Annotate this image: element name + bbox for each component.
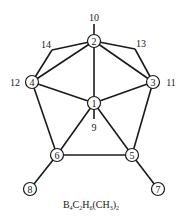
atom-number: 2 (92, 36, 97, 47)
atom-number: 4 (30, 77, 35, 88)
formula-part: B (63, 199, 70, 210)
atom-node-8: 8 (24, 183, 37, 196)
bond-1-5 (94, 103, 132, 155)
bond-4-1 (32, 82, 94, 103)
atom-node-3: 3 (147, 76, 160, 89)
atom-label-10: 10 (89, 12, 99, 23)
atom-label-14: 14 (41, 39, 51, 50)
atom-label-9: 9 (92, 122, 97, 133)
atom-node-2: 2 (88, 35, 101, 48)
molecular-formula: B4C2H6(CH3)2 (0, 199, 182, 211)
atom-label-13: 13 (136, 38, 146, 49)
atom-node-1: 1 (88, 97, 101, 110)
atom-label-12: 12 (10, 77, 20, 88)
atom-node-7: 7 (152, 183, 165, 196)
bond-3-1 (94, 82, 153, 103)
atom-number: 7 (156, 184, 161, 195)
atom-number: 1 (92, 98, 97, 109)
formula-subscript: 2 (116, 205, 119, 211)
hydrogen-labels: 10911121314 (10, 12, 176, 133)
atom-number: 5 (130, 150, 135, 161)
formula-part: (CH (93, 199, 110, 210)
bond-1-6 (57, 103, 94, 155)
formula-part: H (82, 199, 89, 210)
atom-node-4: 4 (26, 76, 39, 89)
atom-number: 8 (28, 184, 33, 195)
atom-number: 6 (55, 150, 60, 161)
molecule-diagram: 10911121314 12345678 (0, 0, 182, 218)
atom-number: 3 (151, 77, 156, 88)
atom-label-11: 11 (166, 77, 176, 88)
atom-node-6: 6 (51, 149, 64, 162)
bond-4-6 (32, 82, 57, 155)
atom-node-5: 5 (126, 149, 139, 162)
bond-3-5 (132, 82, 153, 155)
